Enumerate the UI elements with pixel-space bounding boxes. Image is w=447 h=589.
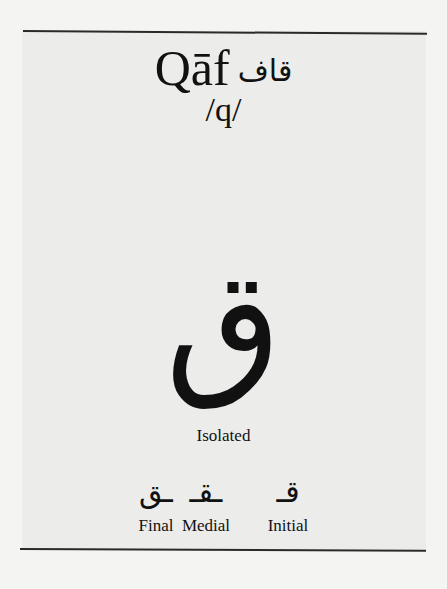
form-medial: ـقـ Medial [171, 472, 241, 536]
form-initial: قـ Initial [253, 472, 323, 536]
medial-label: Medial [171, 516, 241, 536]
initial-glyph: قـ [253, 472, 323, 512]
initial-label: Initial [253, 516, 323, 536]
letter-name-latin: Qāf [155, 40, 230, 96]
medial-glyph: ـقـ [171, 472, 241, 512]
ipa-transcription: /q/ [0, 90, 447, 130]
letter-name-arabic: قاف [238, 53, 293, 88]
isolated-glyph: ق [0, 225, 447, 425]
bottom-rule [20, 548, 426, 552]
isolated-label: Isolated [0, 426, 447, 446]
letter-forms: ـق Final ـقـ Medial قـ Initial [130, 472, 320, 542]
